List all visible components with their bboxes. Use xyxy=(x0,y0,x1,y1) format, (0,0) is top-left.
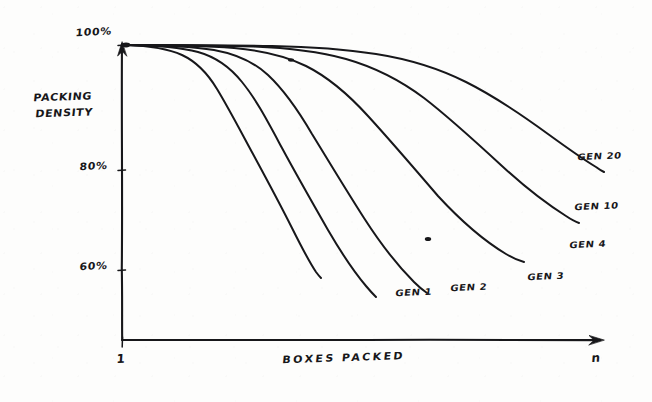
y-axis-title-line-2: DENSITY xyxy=(35,106,94,121)
pen-artifacts xyxy=(122,43,431,241)
curve-label-gen-1: GEN 1 xyxy=(395,287,433,298)
x-axis xyxy=(122,335,604,344)
x-tick-label-start: 1 xyxy=(116,352,126,366)
curve-label-gen-3: GEN 3 xyxy=(527,271,565,282)
curve-gen-10 xyxy=(126,45,579,223)
curve-gen-3 xyxy=(126,45,427,293)
y-axis xyxy=(118,42,127,340)
y-tick-label-60: 60% xyxy=(79,260,108,273)
curve-label-gen-2: GEN 2 xyxy=(450,282,488,293)
curve-label-gen-4: GEN 4 xyxy=(569,239,607,250)
sketch-figure: 100% 80% 60% PACKING DENSITY 1 n BOXES P… xyxy=(0,0,652,402)
curve-gen-2 xyxy=(126,45,376,297)
curve-label-gen-10: GEN 10 xyxy=(574,200,620,211)
y-axis-title-line-1: PACKING xyxy=(33,90,93,105)
curve-gen-1 xyxy=(126,45,321,278)
y-tick-label-80: 80% xyxy=(79,160,108,173)
curve-label-gen-20: GEN 20 xyxy=(577,150,623,161)
x-tick-label-end: n xyxy=(591,351,601,365)
sketch-drawing xyxy=(0,0,652,402)
y-tick-label-100: 100% xyxy=(75,25,112,39)
